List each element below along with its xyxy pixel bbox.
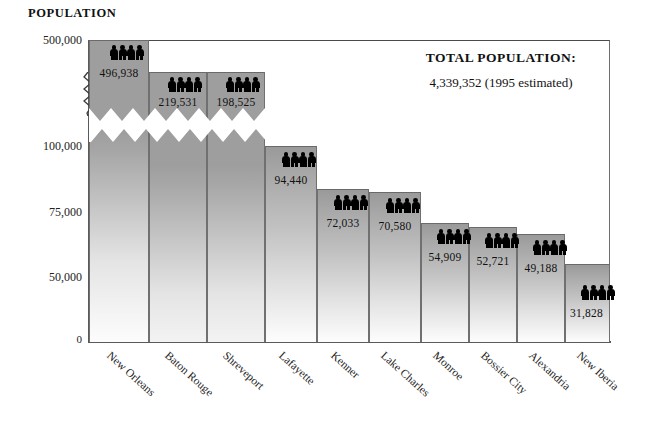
category-label-new-iberia: New Iberia [575,349,621,392]
total-population-heading: TOTAL POPULATION: [396,48,606,69]
category-label-lafayette: Lafayette [277,349,317,387]
chart-canvas: POPULATION 500,000 100,000 75,000 50,000… [0,0,653,426]
total-population-box: TOTAL POPULATION: 4,339,352 (1995 estima… [396,48,606,93]
category-label-alexandria: Alexandria [527,349,573,392]
category-label-lake-charles: Lake Charles [379,349,432,399]
category-label-new-orleans: New Orleans [105,349,158,398]
category-label-monroe: Monroe [431,349,466,382]
total-population-value: 4,339,352 (1995 estimated) [396,73,606,93]
category-label-baton-rouge: Baton Rouge [163,349,216,398]
category-label-kenner: Kenner [329,349,362,381]
category-label-bossier-city: Bossier City [479,349,530,396]
category-label-shreveport: Shreveport [221,349,267,392]
